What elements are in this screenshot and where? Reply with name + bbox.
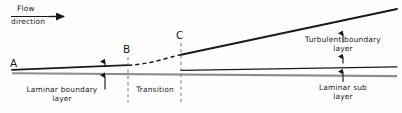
laminar-sub-label-line1: Laminar sub <box>302 84 384 92</box>
point-label-a: A <box>10 58 17 69</box>
flow-label-line1: Flow <box>17 5 35 13</box>
turbulent-bl-label-line1: Turbulent boundary <box>296 36 390 44</box>
turbulent-bl-label-line2: layer <box>296 45 390 53</box>
laminar-sub-layer-edge <box>181 67 397 71</box>
transition-label: Transition <box>129 86 181 94</box>
point-label-b: B <box>123 44 130 55</box>
flow-label-line2: direction <box>11 18 45 26</box>
laminar-sub-label-line2: layer <box>302 93 384 101</box>
transition-curve <box>128 55 181 65</box>
laminar-bl-label-line2: layer <box>18 95 106 103</box>
point-label-c: C <box>176 30 184 41</box>
boundary-layer-diagram: Flow direction A B C Laminar boundary la… <box>0 0 402 113</box>
laminar-bl-label-line1: Laminar boundary <box>18 86 106 94</box>
laminar-boundary-layer-edge <box>12 65 128 70</box>
flat-plate-surface <box>12 73 397 76</box>
